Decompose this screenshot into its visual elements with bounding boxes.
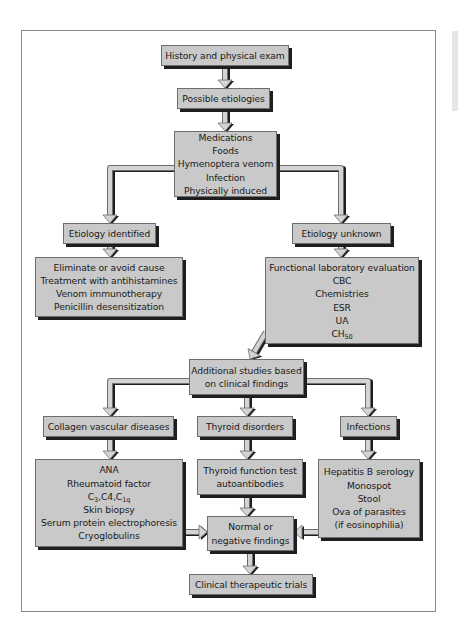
node-text: Infection	[206, 171, 245, 184]
node-text: on clinical findings	[205, 377, 289, 390]
node-text: Chemistries	[315, 287, 368, 300]
node-normal-findings: Normal or negative findings	[207, 516, 294, 551]
node-text: Rheumatoid factor	[67, 477, 151, 490]
node-text: CBC	[333, 274, 352, 287]
node-text: Thyroid function test	[203, 464, 296, 477]
arrow-possible-to-list	[218, 109, 234, 132]
node-infection-tests: Hepatitis B serology Monospot Stool Ova …	[318, 459, 420, 538]
node-collagen: Collagen vascular diseases	[43, 416, 174, 437]
node-history: History and physical exam	[161, 45, 289, 66]
arrow-history-to-possible	[218, 66, 234, 89]
node-etiologies-list: Medications Foods Hymenoptera venom Infe…	[174, 131, 277, 197]
node-text: Collagen vascular diseases	[48, 420, 170, 433]
node-text: Monospot	[347, 479, 391, 492]
node-text: Serum protein electrophoresis	[41, 516, 177, 529]
node-text: Stool	[358, 492, 381, 505]
node-text: Etiology unknown	[301, 227, 381, 240]
node-lab-evaluation: Functional laboratory evaluation CBC Che…	[265, 257, 419, 344]
arrow-thyroid-to-tests	[240, 437, 256, 460]
node-text: Additional studies based	[191, 364, 301, 377]
node-clinical-trials: Clinical therapeutic trials	[189, 574, 313, 595]
node-text: Functional laboratory evaluation	[269, 261, 415, 274]
arrow-additional-to-thyroid	[240, 395, 256, 417]
arrow-collagen-to-tests	[103, 437, 119, 460]
node-text: autoantibodies	[216, 477, 283, 490]
node-thyroid-tests: Thyroid function test autoantibodies	[197, 459, 303, 495]
arrow-additional-to-infections	[304, 381, 377, 417]
node-text: Cryoglobulins	[78, 529, 139, 542]
node-collagen-tests: ANA Rheumatoid factor C3,C4,C1q Skin bio…	[35, 459, 183, 547]
node-text: Hymenoptera venom	[178, 157, 274, 170]
arrow-list-to-identified	[103, 168, 176, 224]
arrow-unknown-to-lab	[334, 244, 350, 258]
node-text: Physically induced	[184, 184, 267, 197]
node-text: Hepatitis B serology	[324, 465, 414, 478]
node-additional-studies: Additional studies based on clinical fin…	[189, 359, 304, 395]
arrow-thyroid-tests-to-normal	[240, 495, 256, 517]
node-text: Eliminate or avoid cause	[54, 261, 165, 274]
arrow-identified-to-treatment	[103, 244, 119, 258]
node-text: (if eosinophilia)	[334, 518, 403, 531]
node-text: Medications	[199, 131, 253, 144]
node-text: UA	[336, 314, 349, 327]
node-text: Normal or	[228, 520, 273, 533]
node-etiology-identified: Etiology identified	[63, 223, 156, 244]
node-thyroid: Thyroid disorders	[197, 416, 293, 437]
node-text: Thyroid disorders	[206, 420, 284, 433]
node-text: negative findings	[212, 534, 290, 547]
node-text: Skin biopsy	[83, 503, 134, 516]
node-text-ch50: CH50	[331, 327, 352, 340]
node-text: Penicillin desensitization	[54, 300, 164, 313]
node-text: ESR	[333, 301, 351, 314]
node-text: Venom immunotherapy	[56, 287, 162, 300]
c4-text: ,C4,	[98, 491, 116, 502]
arrow-infections-to-tests	[361, 437, 377, 460]
arrow-normal-to-trials	[243, 551, 259, 575]
node-text: History and physical exam	[165, 49, 284, 62]
node-text: Infections	[347, 420, 391, 433]
node-text: Treatment with antihistamines	[41, 274, 178, 287]
node-text: Etiology identified	[69, 227, 150, 240]
node-text: Foods	[212, 144, 238, 157]
node-text-complement: C3,C4,C1q	[88, 490, 130, 503]
node-text: Ova of parasites	[332, 505, 406, 518]
node-text: Clinical therapeutic trials	[195, 578, 307, 591]
node-treatment: Eliminate or avoid cause Treatment with …	[35, 257, 183, 317]
node-possible-etiologies: Possible etiologies	[177, 88, 270, 109]
node-infections: Infections	[340, 416, 397, 437]
arrow-list-to-unknown	[277, 168, 350, 224]
ch50-base: CH	[331, 328, 344, 339]
node-text: ANA	[99, 463, 118, 476]
arrow-collagen-tests-to-normal	[183, 525, 209, 540]
ch50-sub: 50	[345, 333, 353, 341]
arrow-additional-to-collagen	[103, 381, 191, 417]
arrow-infection-tests-to-normal	[294, 525, 320, 540]
node-text: Possible etiologies	[182, 92, 264, 105]
node-etiology-unknown: Etiology unknown	[292, 223, 391, 244]
